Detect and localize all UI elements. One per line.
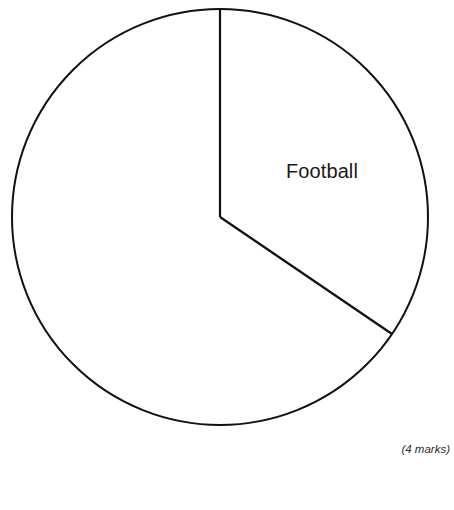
pie-radius-line-football-end xyxy=(220,217,392,334)
marks-note: (4 marks) xyxy=(401,443,450,455)
pie-slice-label-football: Football xyxy=(286,160,358,183)
pie-chart-svg xyxy=(0,0,454,510)
question-page: Football (4 marks) xyxy=(0,0,454,510)
pie-chart-figure xyxy=(0,0,454,510)
